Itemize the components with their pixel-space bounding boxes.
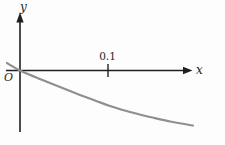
- x-tick-label: 0.1: [99, 51, 116, 62]
- y-axis-arrowhead-icon: [16, 13, 23, 23]
- math-plot-figure: y x O 0.1: [0, 0, 225, 145]
- plot-canvas: [0, 0, 225, 145]
- y-axis-label: y: [20, 1, 27, 13]
- origin-label: O: [4, 72, 13, 83]
- x-axis-arrowhead-icon: [183, 67, 193, 74]
- x-axis-label: x: [196, 64, 203, 76]
- function-curve: [7, 63, 193, 126]
